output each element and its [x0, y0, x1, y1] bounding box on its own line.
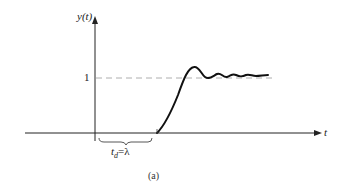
- y-axis-label: y(t): [77, 10, 92, 22]
- dead-time-label: td=λ: [111, 145, 130, 160]
- setpoint-tick-label: 1: [84, 71, 90, 83]
- x-axis-label: t: [324, 126, 327, 138]
- x-axis-arrow-icon: [314, 130, 322, 136]
- y-axis-arrow-icon: [92, 16, 98, 24]
- dead-time-brace: [99, 138, 152, 145]
- step-response-diagram: [0, 0, 344, 187]
- response-curve: [157, 67, 268, 133]
- dead-time-equals-lambda: =λ: [118, 145, 130, 157]
- figure-caption: (a): [148, 170, 159, 181]
